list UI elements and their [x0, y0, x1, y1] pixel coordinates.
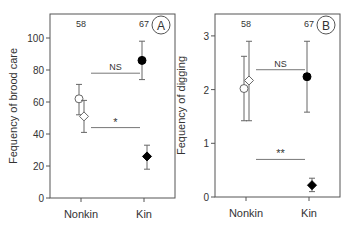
chart-figure: 020406080100Fequency of brood careNonkin…: [0, 0, 357, 227]
panel-b: 0123Fequency of diggingNonkin58Kin67BNS*…: [175, 14, 340, 219]
diamond-marker: [143, 152, 152, 161]
y-axis-label: Fequency of digging: [175, 56, 187, 155]
y-tick-label: 80: [33, 65, 45, 76]
sample-size-label: 67: [139, 19, 149, 29]
y-tick-label: 0: [38, 193, 44, 204]
panel-label: A: [157, 19, 165, 33]
x-tick-label: Nonkin: [64, 208, 98, 220]
diamond-marker: [80, 112, 89, 121]
sample-size-label: 58: [241, 19, 251, 29]
x-tick-label: Nonkin: [229, 207, 263, 219]
significance-label: NS: [274, 59, 287, 69]
significance-label: **: [276, 147, 285, 159]
plot-frame: [50, 14, 175, 198]
x-tick-label: Kin: [136, 208, 152, 220]
y-tick-label: 20: [33, 161, 45, 172]
y-tick-label: 0: [203, 192, 209, 203]
y-tick-label: 2: [203, 85, 209, 96]
plot-frame: [215, 14, 340, 197]
panel-a: 020406080100Fequency of brood careNonkin…: [7, 14, 175, 220]
diamond-marker: [245, 76, 254, 85]
y-tick-label: 1: [203, 138, 209, 149]
y-tick-label: 3: [203, 31, 209, 42]
circle-marker: [240, 85, 248, 93]
circle-marker: [138, 56, 146, 64]
y-axis-label: Fequency of brood care: [7, 48, 19, 164]
circle-marker: [303, 73, 311, 81]
significance-label: NS: [109, 62, 122, 72]
sample-size-label: 58: [76, 19, 86, 29]
y-tick-label: 40: [33, 129, 45, 140]
y-tick-label: 100: [27, 33, 44, 44]
sample-size-label: 67: [304, 19, 314, 29]
circle-marker: [75, 95, 83, 103]
y-tick-label: 60: [33, 97, 45, 108]
panel-label: B: [322, 19, 330, 33]
x-tick-label: Kin: [301, 207, 317, 219]
diamond-marker: [308, 181, 317, 190]
significance-label: *: [113, 116, 118, 128]
